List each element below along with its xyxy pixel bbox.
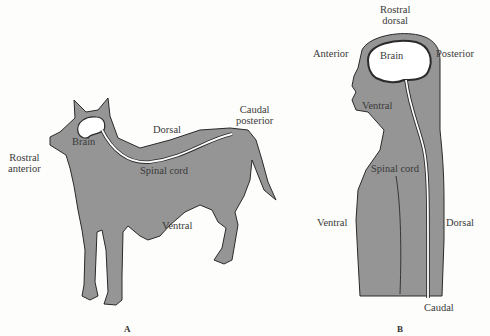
label-spinal-cord-dog: Spinal cord <box>140 165 188 176</box>
label-spinal-cord-human: Spinal cord <box>371 163 419 174</box>
label-ventral-body: Ventral <box>317 217 347 228</box>
label-caudal-human: Caudal <box>424 302 454 313</box>
label-posterior-dog: posterior <box>236 115 273 126</box>
label-rostral-anterior: Rostral anterior <box>8 152 41 174</box>
label-caudal-dog: Caudal <box>236 104 273 115</box>
label-caudal-posterior: Caudal posterior <box>236 104 273 126</box>
label-rostral-dorsal: Rostral dorsal <box>380 4 410 26</box>
label-dorsal-dog: Dorsal <box>153 124 181 135</box>
label-ventral-head: Ventral <box>362 100 392 111</box>
label-dorsal-body: Dorsal <box>446 217 474 228</box>
label-brain-human: Brain <box>380 50 403 61</box>
anatomy-diagram: Rostral anterior Brain Dorsal Spinal cor… <box>0 0 490 336</box>
label-rostral-human: Rostral <box>380 4 410 15</box>
label-anterior-human: Anterior <box>313 48 349 59</box>
label-ventral-dog: Ventral <box>162 220 192 231</box>
panel-label-a: A <box>124 324 131 334</box>
label-posterior-human: Posterior <box>436 48 474 59</box>
panel-label-b: B <box>397 324 403 334</box>
label-brain-dog: Brain <box>72 136 95 147</box>
label-dorsal-top: dorsal <box>380 15 410 26</box>
label-anterior: anterior <box>8 163 41 174</box>
label-rostral: Rostral <box>8 152 41 163</box>
